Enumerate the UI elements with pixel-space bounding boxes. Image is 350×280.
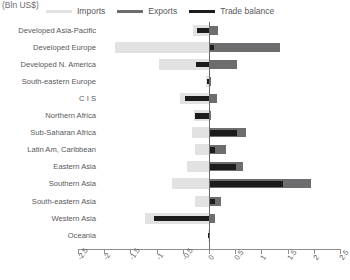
bar-trade-balance: [196, 62, 209, 68]
legend-swatch-icon: [117, 10, 143, 13]
bar-group: [0, 125, 325, 142]
bar-exports: [209, 60, 237, 69]
legend-item-exports: Exports: [117, 7, 177, 16]
chart-legend: ImportsExportsTrade balance: [46, 7, 274, 16]
bar-trade-balance: [154, 216, 209, 222]
x-axis-tick-label: 1: [259, 254, 267, 262]
category-row: South-eastern Asia: [0, 193, 325, 210]
x-axis-tick-label: 0: [207, 254, 215, 262]
bar-group: [0, 22, 325, 39]
category-row: Southern Asia: [0, 176, 325, 193]
category-row: Sub-Saharan Africa: [0, 125, 325, 142]
x-axis-tick-label: 0.5: [233, 249, 245, 262]
bar-trade-balance: [209, 130, 237, 136]
category-row: C I S: [0, 90, 325, 107]
legend-item-trade-balance: Trade balance: [189, 7, 274, 16]
bar-trade-balance: [209, 181, 283, 187]
x-axis-tick-label: -2: [102, 252, 112, 262]
plot-area: Developed Asia-PacificDeveloped EuropeDe…: [0, 22, 325, 246]
chart-units-title: (Bln US$): [2, 0, 39, 10]
bar-group: [0, 210, 325, 227]
bar-imports: [115, 42, 209, 53]
bar-exports: [209, 94, 217, 103]
bar-trade-balance: [185, 96, 209, 102]
category-row: Oceania: [0, 227, 325, 244]
bar-group: [0, 73, 325, 90]
bar-group: [0, 142, 325, 159]
bar-imports: [172, 178, 209, 189]
bar-imports: [187, 161, 209, 172]
x-axis-tick-label: 2.5: [338, 249, 350, 262]
bar-imports: [195, 196, 209, 207]
legend-swatch-icon: [46, 10, 72, 13]
category-row: Western Asia: [0, 210, 325, 227]
x-axis-tick-label: -1: [155, 252, 165, 262]
bar-exports: [209, 26, 218, 35]
legend-item-imports: Imports: [46, 7, 105, 16]
category-row: Latin Am, Caribbean: [0, 142, 325, 159]
bar-trade-balance: [197, 28, 209, 34]
category-row: Developed Europe: [0, 39, 325, 56]
legend-label: Trade balance: [220, 7, 274, 16]
bar-group: [0, 227, 325, 244]
category-row: Northern Africa: [0, 108, 325, 125]
category-row: South-eastern Europe: [0, 73, 325, 90]
bar-group: [0, 90, 325, 107]
bar-group: [0, 108, 325, 125]
bar-trade-balance: [195, 113, 209, 119]
bar-group: [0, 56, 325, 73]
bar-imports: [195, 144, 209, 155]
bar-group: [0, 39, 325, 56]
bar-group: [0, 159, 325, 176]
zero-axis-line: [209, 22, 210, 250]
bar-imports: [192, 127, 209, 138]
bar-trade-balance: [209, 164, 236, 170]
legend-label: Exports: [148, 7, 177, 16]
bar-group: [0, 193, 325, 210]
bar-exports: [209, 43, 280, 52]
bar-group: [0, 176, 325, 193]
category-row: Developed N. America: [0, 56, 325, 73]
x-axis-tick-label: 2: [312, 254, 320, 262]
category-row: Developed Asia-Pacific: [0, 22, 325, 39]
legend-label: Imports: [77, 7, 105, 16]
category-row: Eastern Asia: [0, 159, 325, 176]
legend-swatch-icon: [189, 10, 215, 13]
